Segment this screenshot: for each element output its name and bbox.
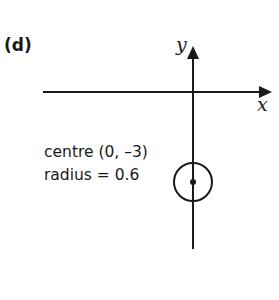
y-axis-arrow-icon (187, 46, 199, 59)
circle-centre-dot (190, 179, 196, 185)
y-axis-label: y (176, 33, 187, 55)
radius-annotation: radius = 0.6 (44, 166, 139, 184)
part-label: (d) (4, 35, 32, 55)
x-axis-label: x (257, 93, 268, 115)
centre-annotation: centre (0, –3) (44, 143, 148, 161)
